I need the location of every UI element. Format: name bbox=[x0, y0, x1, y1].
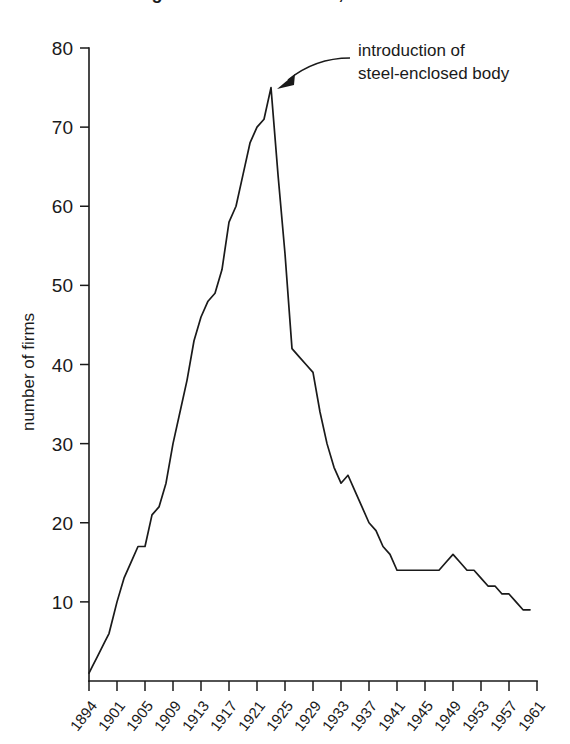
x-tick-label-1933: 1933 bbox=[318, 697, 352, 734]
x-tick-label-1921: 1921 bbox=[234, 697, 268, 734]
annotation-label-line2: steel-enclosed body bbox=[358, 64, 510, 83]
x-axis-tick-labels: 1894190119051909191319171921192519291933… bbox=[66, 697, 548, 734]
x-axis-group: 1894190119051909191319171921192519291933… bbox=[66, 681, 548, 734]
x-tick-label-1929: 1929 bbox=[290, 697, 324, 734]
x-tick-label-1937: 1937 bbox=[346, 697, 380, 734]
figure-title-text: Figure: number of firms, 1894-1961 bbox=[135, 0, 434, 3]
x-tick-label-1901: 1901 bbox=[94, 697, 128, 734]
y-tick-label-60: 60 bbox=[52, 196, 73, 217]
y-axis-ticks bbox=[80, 48, 89, 602]
y-tick-label-30: 30 bbox=[52, 434, 73, 455]
line-chart-canvas: 1020304050607080 number of firms 1894190… bbox=[0, 0, 570, 744]
figure-title-clipped: Figure: number of firms, 1894-1961 bbox=[0, 0, 570, 7]
series-group bbox=[89, 88, 530, 674]
y-axis-group: 1020304050607080 number of firms bbox=[19, 38, 89, 681]
x-tick-label-1909: 1909 bbox=[150, 697, 184, 734]
firms-series-line bbox=[89, 88, 530, 674]
x-axis-ticks bbox=[89, 681, 537, 691]
y-tick-label-70: 70 bbox=[52, 117, 73, 138]
y-axis-title: number of firms bbox=[19, 313, 38, 431]
x-tick-label-1913: 1913 bbox=[178, 697, 212, 734]
annotation-group: introduction of steel-enclosed body bbox=[277, 41, 510, 89]
x-tick-label-1949: 1949 bbox=[430, 697, 464, 734]
y-tick-label-10: 10 bbox=[52, 592, 73, 613]
x-tick-label-1953: 1953 bbox=[458, 697, 492, 734]
x-tick-label-1941: 1941 bbox=[374, 697, 408, 734]
x-tick-label-1961: 1961 bbox=[514, 697, 548, 734]
x-tick-label-1925: 1925 bbox=[262, 697, 296, 734]
y-tick-label-80: 80 bbox=[52, 38, 73, 59]
x-tick-label-1957: 1957 bbox=[486, 697, 520, 734]
y-axis-tick-labels: 1020304050607080 bbox=[52, 38, 73, 613]
x-tick-label-1905: 1905 bbox=[122, 697, 156, 734]
chart-figure: Figure: number of firms, 1894-1961 10203… bbox=[0, 0, 570, 744]
x-tick-label-1894: 1894 bbox=[66, 697, 100, 734]
y-tick-label-20: 20 bbox=[52, 513, 73, 534]
x-tick-label-1945: 1945 bbox=[402, 697, 436, 734]
x-tick-label-1917: 1917 bbox=[206, 697, 240, 734]
y-tick-label-40: 40 bbox=[52, 355, 73, 376]
y-tick-label-50: 50 bbox=[52, 275, 73, 296]
annotation-label-line1: introduction of bbox=[358, 41, 465, 60]
annotation-leader-line bbox=[288, 58, 350, 80]
